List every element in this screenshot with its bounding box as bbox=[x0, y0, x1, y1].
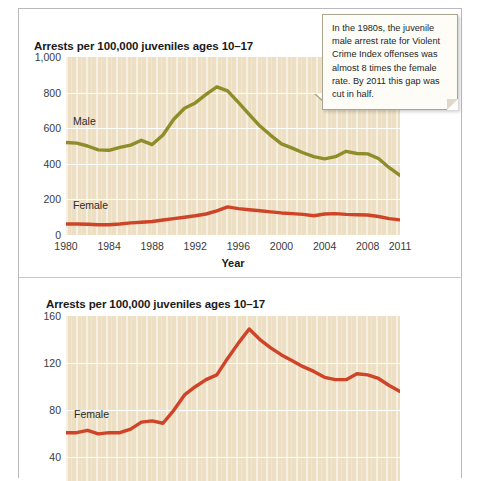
x-axis-tick-label: 2000 bbox=[270, 240, 293, 252]
y-axis-tick-label: 1,000 bbox=[35, 51, 61, 63]
series-label-female: Female bbox=[74, 408, 109, 420]
x-axis-tick-label: 1996 bbox=[227, 240, 250, 252]
y-axis-tick-label: 160 bbox=[43, 310, 61, 322]
series-label-male: Male bbox=[73, 115, 96, 127]
chart-bottom-plot-wrap: 4080120160Female bbox=[0, 277, 485, 474]
y-axis-tick-label: 800 bbox=[43, 87, 61, 99]
series-line-female bbox=[66, 329, 400, 434]
series-line-female bbox=[66, 207, 400, 225]
callout-box: In the 1980s, the juvenile male arrest r… bbox=[322, 14, 458, 110]
series-overlay bbox=[66, 316, 400, 481]
x-axis-tick-label: 1980 bbox=[54, 240, 77, 252]
series-label-female: Female bbox=[73, 199, 108, 211]
y-axis-tick-label: 120 bbox=[43, 357, 61, 369]
chart-bottom: Arrests per 100,000 juveniles ages 10–17… bbox=[0, 277, 485, 474]
x-axis-title: Year bbox=[221, 257, 244, 269]
y-axis-tick-label: 80 bbox=[49, 404, 61, 416]
x-axis-tick-label: 1992 bbox=[184, 240, 207, 252]
x-axis-tick-label: 1984 bbox=[97, 240, 120, 252]
callout-fold-corner bbox=[447, 99, 458, 110]
x-axis-tick-label: 2004 bbox=[313, 240, 336, 252]
x-axis-tick-label: 2011 bbox=[389, 240, 412, 252]
y-axis-tick-label: 600 bbox=[43, 122, 61, 134]
x-axis-tick-label: 2008 bbox=[356, 240, 379, 252]
x-axis-tick-label: 1988 bbox=[141, 240, 164, 252]
y-axis-tick-label: 400 bbox=[43, 158, 61, 170]
callout-text: In the 1980s, the juvenile male arrest r… bbox=[332, 22, 449, 101]
y-axis-tick-label: 200 bbox=[43, 193, 61, 205]
chart-bottom-plot-area bbox=[66, 316, 400, 481]
y-axis-tick-label: 40 bbox=[49, 451, 61, 463]
